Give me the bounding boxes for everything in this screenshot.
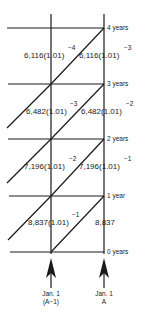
cell-value: 7,196(1.01) xyxy=(79,162,120,171)
year-label: 1 year xyxy=(107,192,126,200)
arrow-label: A xyxy=(102,298,107,305)
diagonal xyxy=(7,84,51,128)
cell-exponent: −3 xyxy=(124,44,132,51)
arrow-label: (A−1) xyxy=(43,298,59,306)
cell-exponent: −4 xyxy=(68,44,76,51)
cell-value: 6,116(1.01) xyxy=(24,51,65,60)
arrow-label: Jan. 1 xyxy=(42,290,60,297)
diagonal xyxy=(7,139,51,183)
year-label: 3 years xyxy=(107,80,129,88)
cell-exponent: −3 xyxy=(70,100,78,107)
year-label: 4 years xyxy=(107,24,129,32)
cell-exponent: −2 xyxy=(126,100,134,107)
cell-value: 6,116(1.01) xyxy=(79,51,120,60)
year-label: 0 years xyxy=(107,248,129,256)
cell-value: 8,837(1.01) xyxy=(28,218,69,227)
cell-exponent: −1 xyxy=(72,211,80,218)
cell-value: 6,482(1.01) xyxy=(81,107,122,116)
cell-exponent: −1 xyxy=(124,155,132,162)
cell-exponent: −2 xyxy=(69,155,77,162)
arrow-label: Jan. 1 xyxy=(95,290,113,297)
cell-value: 8,837 xyxy=(95,218,116,227)
lexis-diagram: 4 years 3 years 2 years 1 year 0 years 6… xyxy=(0,0,143,322)
cell-value: 6,482(1.01) xyxy=(26,107,67,116)
year-label: 2 years xyxy=(107,135,129,143)
cell-value: 7,196(1.01) xyxy=(24,162,65,171)
